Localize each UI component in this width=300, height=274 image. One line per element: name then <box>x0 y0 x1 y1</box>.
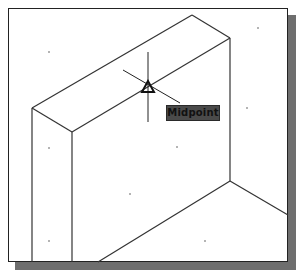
osnap-tooltip-midpoint: Midpoint <box>166 105 220 121</box>
grid-dot <box>257 27 259 29</box>
grid-dot <box>48 51 50 53</box>
drawing-canvas[interactable] <box>0 0 300 274</box>
grid-dot <box>176 146 178 148</box>
grid-dots <box>48 27 259 242</box>
block-edge <box>32 108 72 132</box>
block-edge <box>230 181 288 215</box>
block-edge <box>98 181 230 262</box>
grid-dot <box>129 193 131 195</box>
grid-dot <box>48 240 50 242</box>
grid-dot <box>48 147 50 149</box>
block-edge <box>192 15 230 38</box>
block-edge <box>32 15 192 108</box>
grid-dot <box>246 107 248 109</box>
block-edges <box>32 15 288 262</box>
grid-dot <box>204 240 206 242</box>
